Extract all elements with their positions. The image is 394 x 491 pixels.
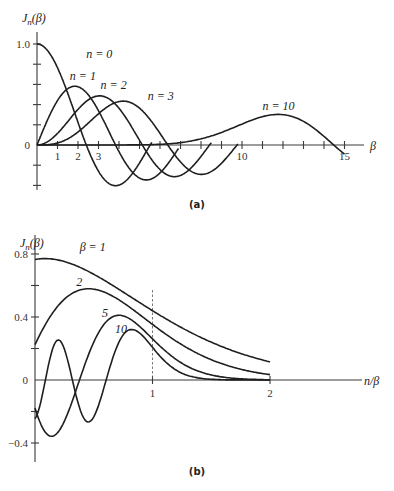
y-tick-label: 0: [25, 139, 31, 151]
y-tick-label: 1.0: [16, 38, 30, 50]
y-axis-label: Jn(β): [22, 11, 46, 27]
chart-b: 120.80.40−0.4Jn(β)n/ββ = 12510(b): [8, 235, 379, 477]
curve-n-2: [37, 96, 211, 177]
series-label: 10: [115, 322, 127, 336]
y-tick-label: 0: [23, 374, 29, 386]
series-label: n = 10: [263, 99, 295, 113]
series-label: n = 0: [86, 47, 112, 61]
x-tick-label: 1: [150, 387, 156, 399]
series-label: n = 3: [148, 89, 174, 103]
x-tick-label: 10: [237, 150, 249, 162]
series-label: n = 2: [101, 78, 127, 92]
series-label: β = 1: [79, 240, 106, 254]
y-tick-label: −0.4: [8, 437, 28, 449]
curve-n-0: [37, 44, 152, 186]
x-axis-label: β: [369, 139, 376, 153]
bessel-function-figure: 123101501.0Jn(β)βn = 0n = 1n = 2n = 3n =…: [0, 0, 394, 491]
y-tick-label: 0.4: [14, 311, 28, 323]
x-tick-label: 2: [267, 387, 273, 399]
x-axis-label: n/β: [364, 374, 379, 388]
y-axis-label: Jn(β): [20, 236, 44, 252]
x-tick-label: 3: [96, 150, 102, 162]
caption-a: (a): [189, 199, 205, 210]
x-tick-label: 2: [75, 150, 81, 162]
chart-a: 123101501.0Jn(β)βn = 0n = 1n = 2n = 3n =…: [16, 11, 376, 210]
series-label: 2: [76, 275, 82, 289]
series-label: 5: [102, 306, 108, 320]
series-label: n = 1: [70, 69, 96, 83]
curve-n-10: [37, 114, 345, 154]
caption-b: (b): [189, 466, 205, 477]
x-tick-label: 1: [55, 150, 61, 162]
